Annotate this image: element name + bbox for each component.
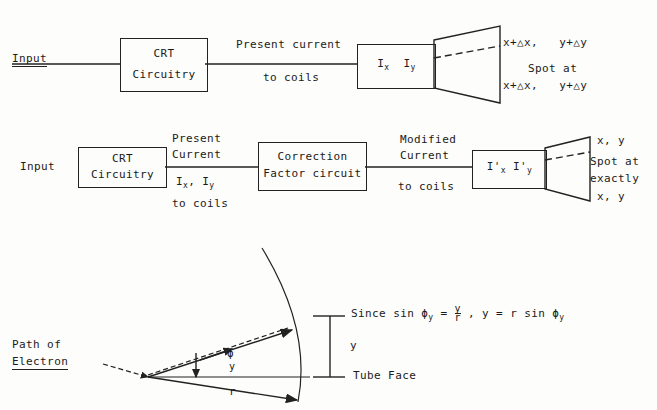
row3-radius-label: r xyxy=(229,385,236,398)
row3-vector-layer xyxy=(0,0,657,410)
row3-y-label: y xyxy=(350,339,357,352)
row3-path-label-2: Electron xyxy=(12,355,68,370)
row3-formula-part3: , y = r sin xyxy=(461,307,552,320)
row3-path-label-1: Path of xyxy=(12,338,61,352)
row3-angle-phi-sub: y xyxy=(229,360,235,373)
row3-angle-phi: ϕ xyxy=(227,347,234,360)
row3-incoming-electron-path xyxy=(103,364,148,377)
row3-formula-eq: = xyxy=(433,307,454,320)
row3-deflected-beam-dashed xyxy=(148,328,288,375)
row3-tube-face-label: Tube Face xyxy=(353,369,416,382)
row3-tube-face-arc xyxy=(262,248,301,402)
row3-formula: Since sin ϕy = yr , y = r sin ϕy xyxy=(351,305,565,324)
row3-formula-phi2-sub: y xyxy=(559,313,564,322)
row3-phi-glyph: ϕ xyxy=(227,347,234,360)
row3-radius-line xyxy=(148,377,297,400)
diagram-canvas: Input CRT Circuitry Present current to c… xyxy=(0,0,657,410)
row3-formula-part1: Since sin xyxy=(351,307,421,320)
